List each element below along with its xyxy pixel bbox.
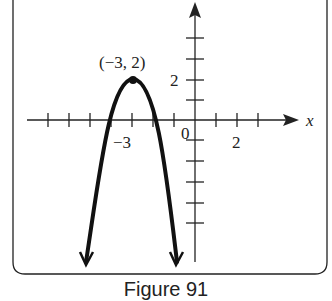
origin-label: 0 [181, 124, 190, 143]
vertex-label: (−3, 2) [99, 53, 145, 72]
x-axis-label: x [305, 111, 314, 130]
x-tick-label-2: 2 [232, 133, 241, 152]
x-tick-label-neg3: −3 [113, 133, 131, 152]
figure-caption: Figure 91 [0, 278, 332, 301]
parabola-curve [86, 79, 177, 262]
vertex-point [129, 76, 137, 84]
y-tick-label-2: 2 [170, 71, 179, 90]
figure-frame [13, 0, 327, 274]
